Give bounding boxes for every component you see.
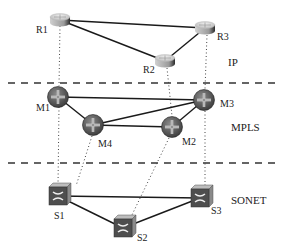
mapping-line-m4-s1 [76, 136, 92, 186]
mapping-line-m2-s2 [131, 138, 169, 217]
layer-label-sonet: SONET [231, 194, 267, 206]
node-label-m3: M3 [220, 98, 234, 109]
layered-network-diagram: R1R2R3M1M2M3M4S1S2S3 IP MPLS SONET [0, 0, 287, 251]
mpls-router-icon [48, 87, 69, 108]
mapping-line-r3-m3 [205, 35, 207, 89]
node-m4: M4 [83, 115, 112, 150]
sonet-switch-icon [191, 185, 213, 207]
node-label-s1: S1 [54, 210, 65, 221]
link-m1-m3 [58, 97, 204, 100]
node-r1: R1 [36, 14, 70, 36]
router-icon [195, 22, 215, 35]
node-label-r2: R2 [143, 64, 155, 75]
node-s1: S1 [49, 183, 71, 221]
link-r1-r3 [60, 20, 205, 28]
node-label-m4: M4 [98, 138, 112, 149]
node-m1: M1 [36, 87, 69, 114]
sonet-switch-icon [49, 183, 71, 205]
link-m4-m3 [93, 100, 204, 125]
mpls-router-icon [194, 90, 215, 111]
node-m2: M2 [162, 117, 196, 148]
node-r2: R2 [143, 55, 175, 76]
node-m3: M3 [194, 90, 234, 111]
layer-label-ip: IP [228, 56, 238, 68]
node-label-r1: R1 [36, 24, 48, 35]
node-r3: R3 [195, 22, 229, 43]
mapping-line-r1-m1 [59, 26, 60, 86]
node-label-s3: S3 [211, 205, 222, 216]
node-label-m2: M2 [182, 136, 196, 147]
node-label-s2: S2 [137, 232, 148, 243]
link-s1-s3 [58, 196, 200, 198]
node-s3: S3 [191, 185, 222, 216]
mapping-line-m1-s1 [58, 107, 59, 186]
node-label-r3: R3 [217, 31, 229, 42]
router-icon [50, 14, 70, 27]
mpls-router-icon [162, 117, 183, 138]
link-m4-m2 [93, 125, 172, 127]
node-label-m1: M1 [36, 102, 50, 113]
router-icon [155, 55, 175, 68]
mpls-router-icon [83, 115, 104, 136]
node-s2: S2 [114, 215, 148, 243]
layer-label-mpls: MPLS [231, 121, 260, 133]
link-r1-r2 [60, 20, 165, 61]
sonet-switch-icon [114, 215, 136, 237]
